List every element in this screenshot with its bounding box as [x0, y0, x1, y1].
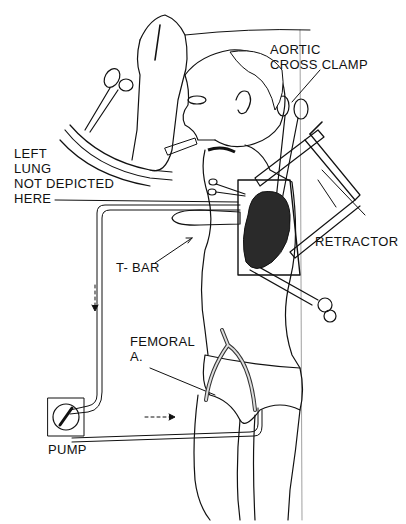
surgical-diagram: AORTIC CROSS CLAMP LEFT LUNG NOT DEPICTE…: [0, 0, 406, 524]
hemostat-chest: [208, 179, 245, 196]
label-retractor: RETRACTOR: [315, 234, 398, 249]
label-pump: PUMP: [48, 442, 87, 457]
label-aortic-cross-clamp: AORTIC CROSS CLAMP: [270, 42, 368, 72]
leg-right: [288, 410, 300, 520]
label-left-lung: LEFT LUNG NOT DEPICTED HERE: [14, 146, 114, 206]
label-t-bar: T- BAR: [116, 260, 160, 275]
hemostat-left: [85, 66, 133, 132]
ear: [236, 91, 251, 114]
leg-left: [194, 395, 210, 520]
t-bar: [172, 210, 240, 225]
label-femoral-artery: FEMORAL A.: [130, 334, 195, 364]
heart: [243, 191, 290, 268]
scissors-lower: [250, 262, 336, 322]
raised-arm: [140, 15, 187, 171]
